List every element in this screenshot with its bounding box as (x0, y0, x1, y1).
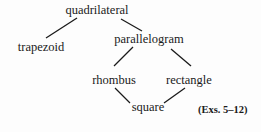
edge-rhombus-square (115, 88, 130, 103)
edge-parallelogram-rectangle (171, 49, 191, 66)
node-square: square (132, 100, 165, 114)
node-rectangle: rectangle (166, 73, 212, 87)
node-rhombus: rhombus (92, 73, 136, 87)
edge-quadrilateral-parallelogram (121, 19, 142, 31)
node-quadrilateral: quadrilateral (65, 3, 128, 17)
exercise-reference-note: (Exs. 5–12) (198, 104, 248, 116)
node-parallelogram: parallelogram (114, 32, 183, 46)
edge-rectangle-square (164, 88, 185, 103)
quadrilateral-hierarchy-diagram: quadrilateral trapezoid parallelogram rh… (0, 0, 261, 132)
node-trapezoid: trapezoid (18, 40, 65, 54)
edge-quadrilateral-trapezoid (46, 18, 77, 38)
edge-parallelogram-rhombus (114, 47, 133, 66)
